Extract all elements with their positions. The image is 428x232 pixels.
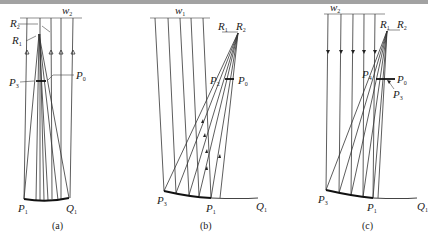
label-P0: P0 [396,73,407,86]
label-P3: P3 [317,193,328,206]
label-Q1: Q1 [417,200,428,213]
label-R2: R2 [9,17,20,30]
label-P4: P4 [361,68,372,81]
caption-b: (b) [200,220,212,232]
caption-a: (a) [52,220,63,232]
label-P1: P1 [366,201,377,214]
label-R2: R2 [396,18,407,31]
label-P3: P3 [8,76,19,89]
panel-a: w2 R2 R1 P3 P0 P1 Q1 (a) [8,4,86,232]
ray-diagram: w2 R2 R1 P3 P0 P1 Q1 (a) [0,0,428,232]
label-P0: P0 [237,74,248,87]
label-R1: R1 [379,18,390,31]
panel-c: w2 R1 R2 P4 P0 P3 P3 P1 Q1 [317,1,428,232]
wavefront-label: w1 [175,4,185,17]
label-Q1: Q1 [256,200,267,213]
label-R2: R2 [235,20,246,33]
caption-c: (c) [362,220,373,232]
label-R1: R1 [217,20,228,33]
wavefront-label: w2 [330,1,340,14]
label-P0: P0 [75,69,86,82]
label-P3-near-plate: P3 [392,88,403,101]
label-Q1: Q1 [66,202,77,215]
label-P1: P1 [17,202,28,215]
mirror-surface [326,190,373,198]
label-P1: P1 [205,202,216,215]
wavefront-label: w2 [62,4,72,17]
mirror-extension [211,198,258,199]
label-R1: R1 [11,34,22,47]
mirror-extension [373,198,417,199]
panel-b: w1 R1 R2 P2 P0 P3 P1 Q1 (b) [150,4,267,232]
mirror-surface [24,198,69,201]
label-P3: P3 [156,194,167,207]
mirror-surface [164,191,211,198]
